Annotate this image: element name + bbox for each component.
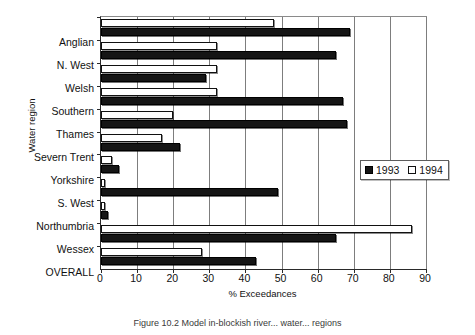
bar-1993 [101,257,256,265]
y-tick-label: Southern [8,106,94,117]
x-tick-label: 80 [374,272,404,284]
chart-legend: 1993 1994 [360,160,449,180]
y-tick-label: Thames [8,129,94,140]
y-axis-tick-labels: AnglianN. WestWelshSouthernThamesSevern … [8,16,96,268]
bar-group [101,179,426,199]
bar-1994 [101,225,412,233]
x-axis-tick-labels: 0102030405060708090 [100,272,430,286]
bar-group [101,225,426,245]
bar-1993 [101,211,108,219]
x-tick-label: 30 [193,272,223,284]
bar-1994 [101,248,202,256]
y-axis-tick [97,223,101,224]
x-tick-label: 90 [410,272,440,284]
y-tick-label: S. West [8,198,94,209]
bar-1994 [101,88,217,96]
y-tick-label: Wessex [8,244,94,255]
bar-group [101,65,426,85]
bar-1994 [101,111,173,119]
legend-swatch-1994 [408,166,416,174]
x-tick-label: 70 [338,272,368,284]
y-tick-label: OVERALL [8,267,94,278]
bar-1994 [101,179,105,187]
x-tick-label: 60 [302,272,332,284]
bar-group [101,248,426,268]
bar-1994 [101,202,105,210]
plot-area [100,16,427,270]
y-axis-tick [97,200,101,201]
y-tick-label: Anglian [8,37,94,48]
y-tick-label: Severn Trent [8,152,94,163]
x-tick-label: 20 [157,272,187,284]
x-tick-label: 0 [85,272,115,284]
legend-item-1993: 1993 [365,164,399,176]
bar-1994 [101,19,274,27]
y-axis-tick [97,246,101,247]
bar-group [101,42,426,62]
y-tick-label: Yorkshire [8,175,94,186]
figure-caption: Figure 10.2 Model in-blockish river... w… [0,318,475,328]
x-axis-title: % Exceedances [100,288,425,299]
bar-1993 [101,143,180,151]
bar-1993 [101,28,350,36]
bar-1993 [101,97,343,105]
x-tick-label: 10 [121,272,151,284]
y-axis-tick [97,40,101,41]
y-axis-tick [97,154,101,155]
legend-item-1994: 1994 [408,164,442,176]
x-tick-label: 50 [266,272,296,284]
bar-group [101,88,426,108]
x-tick-label: 40 [229,272,259,284]
bar-1993 [101,51,336,59]
y-axis-tick [97,17,101,18]
bar-group [101,111,426,131]
bar-1994 [101,156,112,164]
bar-1994 [101,134,162,142]
bar-group [101,19,426,39]
y-tick-label: Welsh [8,83,94,94]
y-tick-label: Northumbria [8,221,94,232]
bar-group [101,202,426,222]
bar-1993 [101,165,119,173]
bar-1994 [101,65,217,73]
bar-1993 [101,188,278,196]
legend-label-1993: 1993 [376,164,399,176]
bar-1994 [101,42,217,50]
bar-chart-figure: Water region AnglianN. WestWelshSouthern… [0,0,475,335]
x-gridline [426,17,427,269]
bar-1993 [101,234,336,242]
y-axis-tick [97,177,101,178]
bar-1993 [101,120,347,128]
legend-label-1994: 1994 [419,164,442,176]
bar-1993 [101,74,206,82]
y-tick-label: N. West [8,60,94,71]
legend-swatch-1993 [365,166,373,174]
bar-group [101,134,426,154]
